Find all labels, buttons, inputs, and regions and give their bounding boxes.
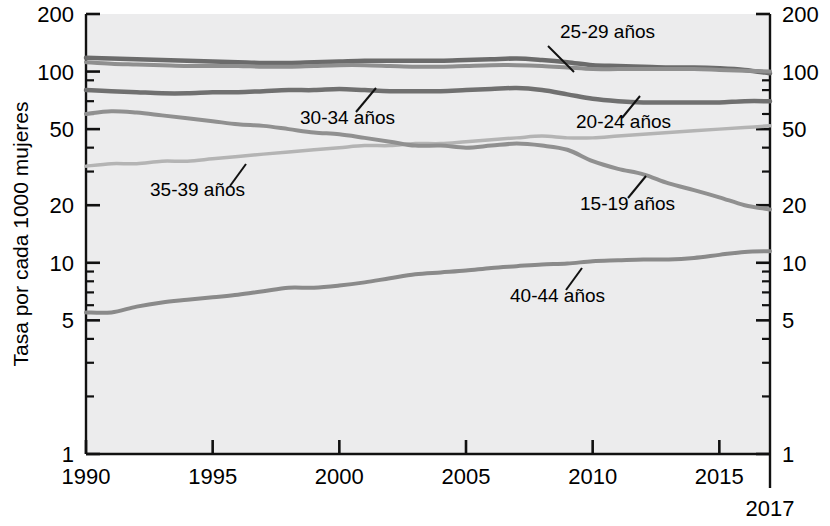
y-axis-title: Tasa por cada 1000 mujeres	[9, 102, 32, 367]
x-tick-label: 2015	[695, 464, 744, 489]
y-tick-label: 100	[37, 60, 74, 85]
series-label-25-29-años: 25-29 años	[560, 21, 655, 42]
series-label-35-39-años: 35-39 años	[150, 179, 245, 200]
x-tick-label: 1995	[188, 464, 237, 489]
y-tick-label: 20	[50, 193, 74, 218]
fertility-rate-line-chart: 20010050201051 20010050201051 1990199520…	[0, 0, 830, 526]
y-tick-label: 200	[782, 2, 819, 27]
y-tick-label: 200	[37, 2, 74, 27]
x-tick-label: 2000	[315, 464, 364, 489]
y-tick-label: 5	[62, 308, 74, 333]
y-tick-label: 50	[50, 117, 74, 142]
chart-root: 20010050201051 20010050201051 1990199520…	[0, 0, 830, 526]
y-tick-label: 10	[50, 251, 74, 276]
y-tick-label: 100	[782, 60, 819, 85]
y-tick-label: 10	[782, 251, 806, 276]
x-tick-label: 2010	[568, 464, 617, 489]
x-tick-label: 2005	[442, 464, 491, 489]
series-label-20-24-años: 20-24 años	[576, 111, 671, 132]
y-tick-label: 5	[782, 308, 794, 333]
series-label-15-19-años: 15-19 años	[580, 193, 675, 214]
series-label-30-34-años: 30-34 años	[300, 107, 395, 128]
y-tick-label: 50	[782, 117, 806, 142]
series-label-40-44-años: 40-44 años	[510, 285, 605, 306]
plot-area-background	[86, 14, 770, 454]
x-tick-label: 1990	[62, 464, 111, 489]
y-tick-label: 20	[782, 193, 806, 218]
x-axis-end-year-label: 2017	[746, 496, 795, 521]
y-tick-label: 1	[782, 442, 794, 467]
